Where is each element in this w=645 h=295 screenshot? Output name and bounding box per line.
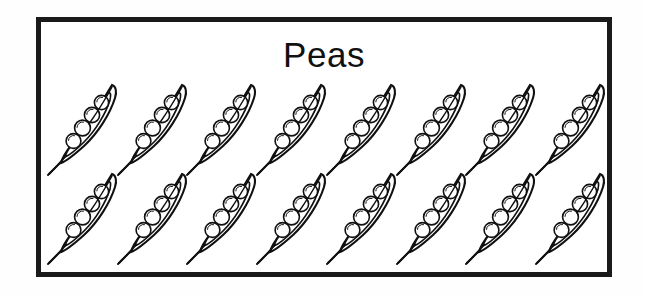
pod-stem-edge [328, 246, 344, 263]
pea-seed [214, 120, 230, 136]
pea-pod-16 [534, 169, 612, 265]
illustration-frame: Peas [36, 17, 612, 277]
pod-stem-edge [188, 246, 204, 263]
pea-seed [424, 209, 440, 225]
pod-stem-edge [119, 246, 135, 263]
pea-seed [354, 120, 370, 136]
pea-pod-1 [46, 80, 124, 176]
pea-pod-grid [46, 80, 612, 272]
pea-pod-13 [325, 169, 403, 265]
pea-pod-row-top [46, 80, 612, 176]
pea-seed [75, 209, 91, 225]
pea-pod-3 [185, 80, 263, 176]
pea-pod-10 [116, 169, 194, 265]
pea-pod-14 [395, 169, 473, 265]
pea-seed [424, 120, 440, 136]
pea-seed [75, 120, 91, 136]
pea-seed [354, 209, 370, 225]
pea-pod-6 [395, 80, 473, 176]
pea-seed [493, 209, 509, 225]
pea-pod-9 [46, 169, 124, 265]
pea-seed [214, 209, 230, 225]
pod-stem-edge [49, 246, 65, 263]
pea-pod-15 [464, 169, 542, 265]
pea-pod-8 [534, 80, 612, 176]
pea-pod-5 [325, 80, 403, 176]
pea-seed [563, 209, 579, 225]
pod-stem-edge [258, 246, 274, 263]
page-title: Peas [41, 37, 607, 72]
pea-pod-row-bottom [46, 169, 612, 265]
pod-stem-edge [537, 246, 553, 263]
pea-seed [145, 209, 161, 225]
pea-pod-11 [185, 169, 263, 265]
illustration-canvas: Peas [0, 0, 645, 295]
pod-stem-edge [398, 246, 414, 263]
pea-pod-2 [116, 80, 194, 176]
pea-seed [284, 209, 300, 225]
pea-pod-12 [255, 169, 333, 265]
pea-seed [563, 120, 579, 136]
pea-pod-7 [464, 80, 542, 176]
pea-seed [145, 120, 161, 136]
pod-stem-edge [467, 246, 483, 263]
pea-pod-4 [255, 80, 333, 176]
pea-seed [284, 120, 300, 136]
pea-seed [493, 120, 509, 136]
